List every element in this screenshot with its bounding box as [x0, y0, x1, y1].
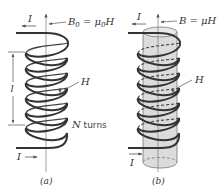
panel-a-air-core-solenoid: l I B0 = μ0H H N turns I (a) — [8, 13, 115, 186]
panel-a-field-label: B0 = μ0H — [67, 16, 115, 29]
panel-b-current-top-label: I — [136, 11, 142, 22]
panel-a-coil-front — [26, 43, 68, 140]
panel-a-bottom-lead-wire — [16, 133, 67, 148]
panel-b-magnetic-core-solenoid: I B = μH H I (b) — [128, 11, 217, 186]
solenoid-figure: l I B0 = μ0H H N turns I (a) — [0, 0, 217, 192]
panel-b-field-label: B = μH — [178, 15, 217, 26]
panel-a-length-label: l — [11, 83, 14, 94]
panel-a-current-top-label: I — [27, 13, 33, 24]
panel-a-h-label: H — [80, 76, 90, 87]
panel-b-h-label: H — [194, 74, 204, 85]
panel-b-field-pointer — [161, 21, 177, 22]
panel-a-current-bottom-label: I — [16, 151, 22, 162]
panel-a-field-pointer — [49, 22, 66, 24]
panel-b-h-pointer — [177, 80, 192, 88]
panel-b-core-bottom — [143, 162, 177, 168]
panel-a-caption: (a) — [40, 176, 53, 186]
panel-a-top-lead-wire — [16, 33, 68, 43]
panel-b-caption: (b) — [152, 176, 165, 186]
panel-b-current-bottom-label: I — [129, 157, 135, 168]
panel-a-turns-label: N turns — [71, 119, 107, 130]
panel-a-h-pointer — [64, 82, 79, 90]
